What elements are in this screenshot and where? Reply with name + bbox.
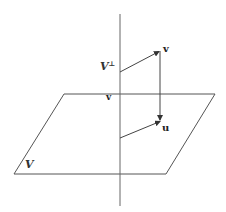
subspace-label: V bbox=[25, 158, 35, 171]
orthogonal-complement-label: V⊥ bbox=[100, 59, 115, 73]
projection-diagram: V⊥ v v u V bbox=[0, 0, 226, 212]
projection-u-label: u bbox=[162, 122, 169, 133]
subspace-plane bbox=[14, 94, 215, 174]
vector-v-label: v bbox=[162, 43, 170, 54]
vector-v-arrow bbox=[120, 52, 159, 73]
origin-label: v bbox=[105, 92, 112, 102]
vector-u-arrow bbox=[120, 122, 160, 139]
